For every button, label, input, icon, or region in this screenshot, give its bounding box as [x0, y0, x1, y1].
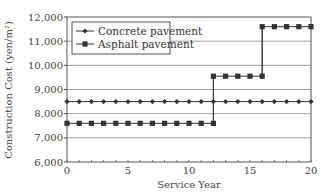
- series-concrete-pavement: [64, 99, 313, 104]
- diamond-marker: [113, 99, 118, 104]
- y-tick-label: 8,000: [34, 108, 63, 119]
- x-tick-label: 10: [183, 165, 196, 176]
- diamond-marker: [125, 99, 130, 104]
- diamond-marker: [223, 99, 228, 104]
- square-marker: [89, 121, 94, 126]
- diamond-marker: [199, 99, 204, 104]
- y-tick-label: 9,000: [34, 84, 63, 95]
- legend-square-icon: [82, 41, 87, 46]
- x-axis-label: Service Year: [157, 179, 221, 190]
- square-marker: [235, 74, 240, 79]
- square-marker: [125, 121, 130, 126]
- square-marker: [296, 24, 301, 29]
- diamond-marker: [308, 99, 313, 104]
- y-tick-label: 6,000: [34, 157, 63, 168]
- diamond-marker: [186, 99, 191, 104]
- square-marker: [101, 121, 106, 126]
- legend: Concrete pavementAsphalt pavement: [72, 22, 203, 54]
- square-marker: [150, 121, 155, 126]
- legend-label: Asphalt pavement: [97, 38, 195, 50]
- x-tick-label: 5: [125, 165, 131, 176]
- diamond-marker: [284, 99, 289, 104]
- square-marker: [260, 74, 265, 79]
- diamond-marker: [174, 99, 179, 104]
- square-marker: [174, 121, 179, 126]
- x-tick-label: 15: [244, 165, 257, 176]
- diamond-marker: [89, 99, 94, 104]
- diamond-marker: [77, 99, 82, 104]
- square-marker: [272, 24, 277, 29]
- square-marker: [138, 121, 143, 126]
- square-marker: [64, 121, 69, 126]
- chart-svg: 6,0007,0008,0009,00010,00011,00012,000 0…: [0, 0, 331, 194]
- y-tick-label: 7,000: [34, 132, 63, 143]
- square-marker: [211, 121, 216, 126]
- square-marker: [199, 121, 204, 126]
- diamond-marker: [296, 99, 301, 104]
- diamond-marker: [260, 99, 265, 104]
- x-tick-label: 20: [305, 165, 318, 176]
- diamond-marker: [101, 99, 106, 104]
- square-marker: [77, 121, 82, 126]
- square-marker: [308, 24, 313, 29]
- diamond-marker: [272, 99, 277, 104]
- square-marker: [223, 74, 228, 79]
- diamond-marker: [64, 99, 69, 104]
- square-marker: [162, 121, 167, 126]
- diamond-marker: [162, 99, 167, 104]
- diamond-marker: [138, 99, 143, 104]
- diamond-marker: [150, 99, 155, 104]
- square-marker: [211, 74, 216, 79]
- y-tick-label: 11,000: [28, 36, 63, 47]
- y-axis-label: Construction Cost (yen/m²): [3, 21, 14, 159]
- square-marker: [186, 121, 191, 126]
- diamond-marker: [247, 99, 252, 104]
- square-marker: [260, 24, 265, 29]
- square-marker: [247, 74, 252, 79]
- y-axis-ticks: 6,0007,0008,0009,00010,00011,00012,000: [28, 12, 67, 168]
- y-tick-label: 10,000: [28, 60, 63, 71]
- square-marker: [113, 121, 118, 126]
- x-tick-label: 0: [64, 165, 70, 176]
- diamond-marker: [235, 99, 240, 104]
- y-tick-label: 12,000: [28, 12, 63, 23]
- square-marker: [284, 24, 289, 29]
- legend-label: Concrete pavement: [98, 25, 203, 37]
